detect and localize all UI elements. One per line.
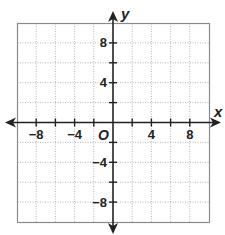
x-tick-label: −4 — [67, 127, 83, 142]
x-axis-label: x — [213, 103, 223, 120]
origin-label: O — [98, 127, 109, 143]
coordinate-plane: −8−448 84−4−8 x y O — [0, 0, 225, 235]
x-tick-label: −8 — [29, 127, 44, 142]
y-tick-label: −8 — [92, 195, 107, 210]
axes — [8, 14, 218, 231]
y-tick-label: −4 — [92, 155, 108, 170]
y-tick-label: 8 — [100, 35, 107, 50]
y-axis-label: y — [120, 5, 130, 22]
y-tick-label: 4 — [100, 75, 108, 90]
x-tick-label: 4 — [148, 127, 156, 142]
x-tick-label: 8 — [186, 127, 193, 142]
x-tick-labels: −8−448 — [29, 127, 194, 142]
